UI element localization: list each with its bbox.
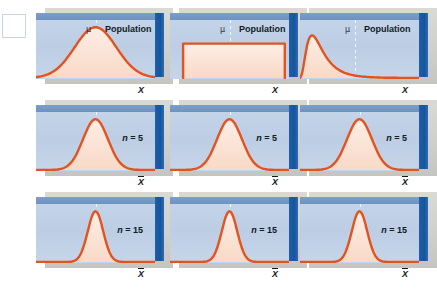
panel-top-face [170,13,298,20]
panel-front-face: n = 5 [300,112,419,171]
panel-front-face: n = 15 [170,204,289,263]
panel-right-face [289,197,298,261]
axis-label-population-0: X [138,86,144,95]
curve-fill-area [36,211,155,262]
mu-symbol: μ [86,26,91,34]
panel-front-face: μPopulation [300,20,419,79]
panel-right-face [289,13,298,77]
axis-label-n5-1: X [272,176,278,187]
panel-front-face: μPopulation [36,20,155,79]
mu-symbol: μ [345,26,350,34]
curve-fill-area [300,211,419,262]
distribution-panel-n5-uniform: n = 5 [170,100,298,176]
panel-right-face [419,197,428,261]
distribution-panel-n15-skewed: n = 15 [300,192,428,268]
panel-right-face [155,197,164,261]
axis-label-n5-0: X [138,176,144,187]
panel-top-face [300,105,428,112]
distribution-panel-n5-normal: n = 5 [36,100,164,176]
panel-top-face [36,197,164,204]
axis-label-n15-0: X [138,268,144,279]
distribution-panel-n15-uniform: n = 15 [170,192,298,268]
curve-fill-area [170,211,289,262]
population-label: Population [239,25,286,34]
sample-size-label: n = 15 [251,226,277,235]
panel-top-face [170,197,298,204]
panel-top-face [36,105,164,112]
axis-label-n15-2: X [402,268,408,279]
panel-front-face: n = 15 [36,204,155,263]
axis-label-population-2: X [402,86,408,95]
axis-label-n15-1: X [272,268,278,279]
mu-symbol: μ [220,26,225,34]
panel-top-face [36,13,164,20]
panel-right-face [419,105,428,169]
panel-top-face [300,13,428,20]
sample-size-label: n = 5 [386,134,407,143]
panel-right-face [155,105,164,169]
panel-right-face [289,105,298,169]
corner-marker-box [2,14,26,38]
curve-fill-area [300,119,419,170]
panel-front-face: n = 5 [170,112,289,171]
sample-size-label: n = 15 [117,226,143,235]
axis-label-population-1: X [272,86,278,95]
curve-fill-area [36,119,155,170]
x-bar-overline [138,176,144,177]
panel-right-face [155,13,164,77]
distribution-panel-pop-uniform: μPopulation [170,8,298,84]
x-bar-overline [272,176,278,177]
population-label: Population [105,25,152,34]
x-bar-overline [402,268,408,269]
curve-fill-area [183,44,285,78]
x-bar-overline [138,268,144,269]
population-label: Population [364,25,411,34]
panel-front-face: n = 15 [300,204,419,263]
x-bar-overline [402,176,408,177]
panel-top-face [170,105,298,112]
x-bar-overline [272,268,278,269]
distribution-panel-n5-skewed: n = 5 [300,100,428,176]
panel-front-face: n = 5 [36,112,155,171]
curve-fill-area [170,119,289,170]
sample-size-label: n = 5 [122,134,143,143]
sample-size-label: n = 5 [256,134,277,143]
distribution-panel-pop-skewed: μPopulation [300,8,428,84]
panel-right-face [419,13,428,77]
axis-label-n5-2: X [402,176,408,187]
distribution-panel-pop-normal: μPopulation [36,8,164,84]
distribution-panel-n15-normal: n = 15 [36,192,164,268]
sample-size-label: n = 15 [381,226,407,235]
panel-front-face: μPopulation [170,20,289,79]
panel-top-face [300,197,428,204]
